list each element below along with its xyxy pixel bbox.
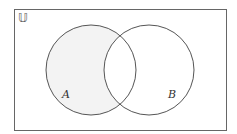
universe-label: 𝕌 [18, 11, 28, 25]
set-a-label: A [62, 88, 70, 101]
venn-diagram [0, 0, 237, 134]
set-b-label: B [168, 88, 176, 101]
shaded-region-a-only [0, 0, 237, 134]
